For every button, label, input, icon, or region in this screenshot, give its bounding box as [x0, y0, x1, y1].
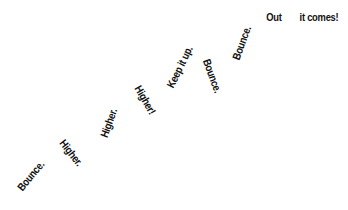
word-higher-2: Higher. [99, 107, 120, 139]
word-it-comes: it comes! [300, 12, 339, 23]
word-bounce-1: Bounce. [16, 159, 47, 193]
word-bounce-3: Bounce. [231, 25, 253, 62]
word-bounce-2: Bounce. [201, 58, 223, 95]
word-higher-exclaim: Higher! [133, 84, 158, 116]
word-keep-it-up: Keep it up. [165, 44, 195, 89]
word-higher-1: Higher. [57, 138, 84, 168]
word-out: Out [266, 12, 281, 23]
